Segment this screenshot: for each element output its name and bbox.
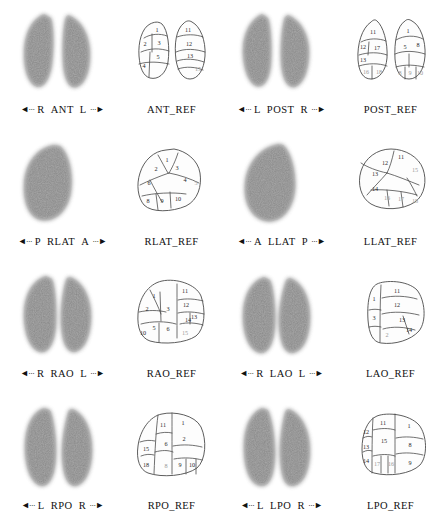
panel-row: 1 2 3 5 6 10 11 12 13 14 15 ◄···RRAOL···…: [0, 264, 438, 396]
ref-label-rao: RAO_REF: [124, 368, 219, 379]
side-right-label: L: [80, 104, 87, 115]
svg-text:14: 14: [363, 457, 369, 464]
side-left-label: L: [257, 500, 264, 511]
view-label-lao: ◄···RLAOL···►: [219, 368, 343, 379]
svg-text:6: 6: [147, 179, 150, 186]
svg-text:12: 12: [394, 301, 400, 308]
panel-rpo: 11 1 2 15 6 18 8 9 10 ◄···LRPOR···► RPO_…: [0, 396, 219, 528]
svg-text:6: 6: [166, 325, 169, 332]
svg-text:1: 1: [155, 26, 158, 33]
view-label-post: ◄···LPOSTR···►: [219, 104, 343, 115]
caption-post: ◄···LPOSTR···► POST_REF: [219, 98, 438, 120]
svg-text:11: 11: [398, 153, 404, 160]
arrow-right-icon: ···►: [89, 500, 103, 510]
svg-text:6: 6: [164, 440, 167, 447]
arrow-left-icon: ◄···: [240, 500, 254, 510]
panel-row: 1 2 3 4 5 6 8 9 10 ◄···PRLATA···► RLAT_R…: [0, 132, 438, 264]
side-right-label: R: [297, 500, 305, 511]
arrow-right-icon: ···►: [308, 500, 322, 510]
svg-text:3: 3: [175, 164, 178, 171]
scintigram-post: [229, 6, 341, 96]
view-name-label: ANT: [51, 104, 74, 115]
svg-text:5: 5: [194, 179, 197, 186]
ref-label-post: POST_REF: [343, 104, 438, 115]
scintigram-llat: [229, 138, 341, 228]
side-left-label: A: [254, 236, 262, 247]
reference-diagram-rao: 1 2 3 5 6 10 11 12 13 14 15: [128, 272, 216, 356]
svg-text:16: 16: [384, 194, 390, 201]
svg-text:1: 1: [407, 422, 410, 429]
ref-label-ant: ANT_REF: [124, 104, 219, 115]
svg-text:11: 11: [370, 28, 376, 35]
svg-text:14: 14: [372, 185, 378, 192]
panel-llat: 11 12 13 14 15 16 17 18 ◄···ALLATP···► L…: [219, 132, 438, 264]
svg-text:14: 14: [185, 316, 191, 323]
reference-diagram-lao: 1 3 2 11 12 13 14: [347, 272, 435, 356]
caption-lao: ◄···RLAOL···► LAO_REF: [219, 362, 438, 384]
arrow-left-icon: ◄···: [18, 236, 32, 246]
caption-rpo: ◄···LRPOR···► RPO_REF: [0, 494, 219, 516]
caption-llat: ◄···ALLATP···► LLAT_REF: [219, 230, 438, 252]
scintigram-rao: [10, 270, 122, 360]
svg-text:15: 15: [143, 445, 149, 452]
ref-label-llat: LLAT_REF: [343, 236, 438, 247]
reference-diagram-rlat: 1 2 3 4 5 6 8 9 10: [128, 140, 216, 224]
svg-text:2: 2: [154, 165, 157, 172]
panel-ant: 1 2 3 4 5 11 12 13 15 ◄: [0, 0, 219, 132]
svg-text:14: 14: [406, 326, 412, 333]
scintigram-lao: [229, 270, 341, 360]
reference-diagram-llat: 11 12 13 14 15 16 17 18: [347, 140, 435, 224]
caption-rlat: ◄···PRLATA···► RLAT_REF: [0, 230, 219, 252]
svg-text:13: 13: [187, 52, 193, 59]
side-left-label: R: [256, 368, 264, 379]
svg-text:9: 9: [178, 461, 181, 468]
svg-text:9: 9: [160, 197, 163, 204]
svg-text:17: 17: [398, 195, 404, 202]
caption-ant: ◄···RANTL···► ANT_REF: [0, 98, 219, 120]
svg-text:18: 18: [412, 197, 418, 204]
side-right-label: L: [80, 368, 87, 379]
ref-label-lpo: LPO_REF: [343, 500, 438, 511]
svg-text:9: 9: [408, 69, 411, 76]
panel-row: 11 1 2 15 6 18 8 9 10 ◄···LRPOR···► RPO_…: [0, 396, 438, 528]
svg-text:11: 11: [182, 287, 188, 294]
view-name-label: LLAT: [268, 236, 296, 247]
side-left-label: L: [254, 104, 261, 115]
svg-text:3: 3: [372, 314, 375, 321]
svg-text:11: 11: [185, 26, 191, 33]
svg-text:1: 1: [152, 292, 155, 299]
view-label-rpo: ◄···LRPOR···►: [0, 500, 124, 511]
panel-post: 11 12 17 13 16 18 1 5 8 8: [219, 0, 438, 132]
scintigram-lpo: [229, 402, 341, 492]
svg-text:8: 8: [408, 441, 411, 448]
svg-text:10: 10: [417, 69, 423, 76]
view-label-rlat: ◄···PRLATA···►: [0, 236, 124, 247]
arrow-right-icon: ···►: [90, 368, 104, 378]
view-label-ant: ◄···RANTL···►: [0, 104, 124, 115]
svg-text:10: 10: [189, 461, 195, 468]
side-right-label: A: [81, 236, 89, 247]
svg-text:13: 13: [372, 170, 378, 177]
svg-text:3: 3: [166, 305, 169, 312]
arrow-right-icon: ···►: [311, 104, 325, 114]
panel-lao: 1 3 2 11 12 13 14 ◄···RLAOL···► LAO_REF: [219, 264, 438, 396]
caption-lpo: ◄···LLPOR···► LPO_REF: [219, 494, 438, 516]
side-right-label: P: [302, 236, 308, 247]
svg-text:17: 17: [374, 460, 380, 467]
svg-text:5: 5: [152, 324, 155, 331]
arrow-left-icon: ◄···: [239, 368, 253, 378]
view-label-lpo: ◄···LLPOR···►: [219, 500, 343, 511]
arrow-right-icon: ···►: [92, 236, 106, 246]
side-right-label: L: [299, 368, 306, 379]
svg-text:13: 13: [360, 56, 366, 63]
view-name-label: RLAT: [47, 236, 75, 247]
arrow-left-icon: ◄···: [237, 104, 251, 114]
side-left-label: P: [35, 236, 41, 247]
svg-text:12: 12: [360, 43, 366, 50]
arrow-left-icon: ◄···: [20, 368, 34, 378]
svg-text:15: 15: [412, 166, 418, 173]
arrow-left-icon: ◄···: [21, 500, 35, 510]
svg-text:5: 5: [403, 43, 406, 50]
svg-text:10: 10: [140, 329, 146, 336]
svg-text:2: 2: [143, 40, 146, 47]
